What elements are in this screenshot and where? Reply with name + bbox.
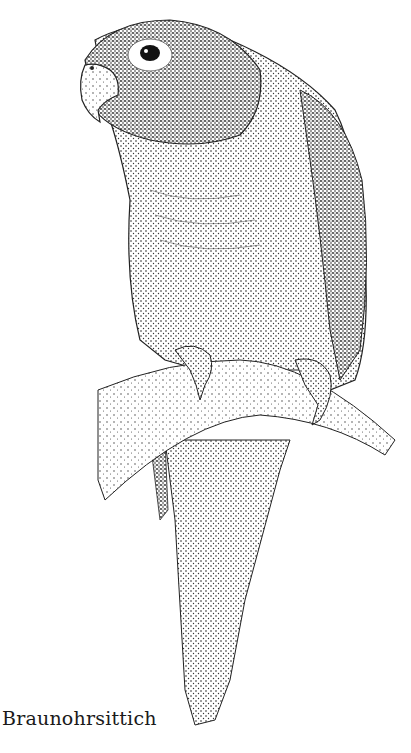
- eye: [140, 45, 160, 61]
- parrot-illustration: [0, 0, 411, 753]
- caption: Braunohrsittich: [2, 707, 157, 729]
- tail: [150, 440, 290, 725]
- head: [81, 20, 261, 144]
